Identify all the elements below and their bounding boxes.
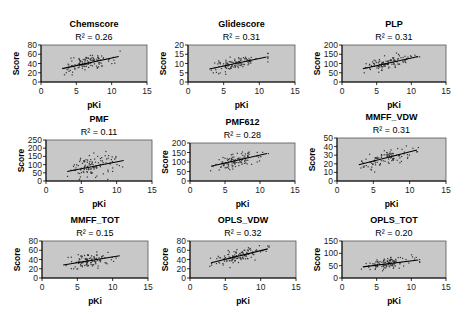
chart-panel-glidescore: GlidescoreR² = 0.3105101520051015pKiScor…: [158, 19, 300, 110]
data-point: [210, 170, 211, 171]
data-point: [94, 167, 95, 168]
data-point: [243, 64, 244, 65]
data-point: [251, 57, 252, 58]
data-point: [410, 55, 411, 56]
data-point: [95, 263, 96, 264]
data-point: [379, 66, 380, 67]
y-tick-label: 20: [175, 40, 185, 50]
data-point: [77, 268, 78, 269]
data-point: [237, 258, 238, 259]
data-point: [229, 267, 230, 268]
data-point: [369, 263, 370, 264]
data-point: [85, 159, 86, 160]
data-point: [105, 262, 106, 263]
x-tick-label: 10: [108, 282, 118, 292]
data-point: [241, 164, 242, 165]
data-point: [92, 264, 93, 265]
data-point: [390, 264, 391, 265]
data-point: [268, 247, 269, 248]
r-squared-label: R² = 0.31: [375, 32, 412, 42]
data-point: [67, 69, 68, 70]
data-point: [229, 158, 230, 159]
data-point: [262, 152, 263, 153]
data-point: [223, 164, 224, 165]
data-point: [402, 61, 403, 62]
data-point: [267, 61, 268, 62]
data-point: [108, 60, 109, 61]
chart-title: OPLS_VDW: [218, 215, 269, 225]
data-point: [80, 265, 81, 266]
data-point: [391, 160, 392, 161]
data-point: [235, 163, 236, 164]
data-point: [210, 258, 211, 259]
data-point: [87, 60, 88, 61]
data-point: [238, 67, 239, 68]
data-point: [378, 62, 379, 63]
data-point: [259, 160, 260, 161]
data-point: [78, 63, 79, 64]
data-point: [250, 249, 251, 250]
y-tick-label: 200: [324, 40, 338, 50]
data-point: [108, 155, 109, 156]
data-point: [112, 171, 113, 172]
data-point: [103, 255, 104, 256]
data-point: [90, 58, 91, 59]
data-point: [229, 256, 230, 257]
data-point: [381, 157, 382, 158]
data-point: [383, 62, 384, 63]
x-axis: 051015: [188, 278, 301, 292]
y-tick-label: 200: [172, 138, 186, 148]
y-tick-label: 20: [324, 159, 334, 169]
data-point: [380, 261, 381, 262]
data-point: [67, 176, 68, 177]
data-point: [89, 155, 90, 156]
data-point: [92, 265, 93, 266]
data-point: [100, 261, 101, 262]
data-point: [376, 62, 377, 63]
data-point: [390, 157, 391, 158]
data-point: [238, 158, 239, 159]
data-point: [86, 169, 87, 170]
data-point: [81, 172, 82, 173]
data-point: [394, 261, 395, 262]
y-tick-label: 40: [324, 142, 334, 152]
data-point: [406, 145, 407, 146]
y-tick-label: 80: [29, 236, 39, 246]
data-point: [81, 255, 82, 256]
data-point: [245, 153, 246, 154]
data-point: [235, 260, 236, 261]
data-point: [236, 162, 237, 163]
data-point: [385, 267, 386, 268]
data-point: [398, 257, 399, 258]
data-point: [248, 58, 249, 59]
data-point: [396, 52, 397, 53]
data-point: [222, 263, 223, 264]
data-point: [92, 161, 93, 162]
data-point: [108, 171, 109, 172]
y-axis-label: Score: [16, 148, 26, 172]
data-point: [90, 159, 91, 160]
data-point: [381, 67, 382, 68]
data-point: [383, 269, 384, 270]
data-point: [224, 158, 225, 159]
y-tick-label: 0: [32, 77, 37, 87]
data-point: [401, 161, 402, 162]
data-point: [92, 65, 93, 66]
data-point: [90, 171, 91, 172]
data-point: [103, 173, 104, 174]
data-point: [242, 251, 243, 252]
data-point: [247, 163, 248, 164]
data-point: [74, 68, 75, 69]
data-point: [230, 61, 231, 62]
data-point: [90, 59, 91, 60]
data-point: [387, 154, 388, 155]
data-point: [95, 262, 96, 263]
data-point: [376, 67, 377, 68]
data-point: [384, 161, 385, 162]
data-point: [93, 167, 94, 168]
data-point: [66, 265, 67, 266]
data-point: [226, 63, 227, 64]
data-point: [419, 56, 420, 57]
x-axis-label: pKi: [235, 100, 249, 110]
data-point: [394, 64, 395, 65]
